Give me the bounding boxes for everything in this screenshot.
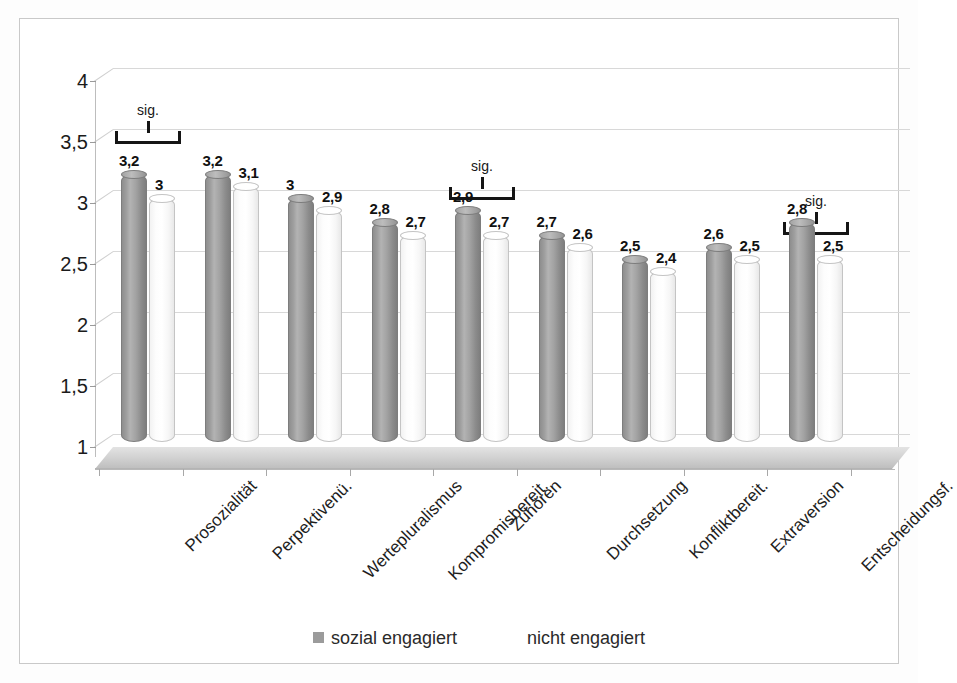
x-axis-line (95, 469, 895, 470)
x-axis-label-8: Extraversion (767, 477, 846, 556)
y-axis-tick (90, 325, 96, 326)
bar-top-ellipse (622, 255, 648, 264)
bar-value-label: 2,5 (620, 237, 640, 254)
gridline-depth-edge (94, 312, 114, 326)
bar-nicht-engagiert (149, 198, 175, 442)
bar-value-label: 3,2 (203, 152, 223, 169)
legend-label: nicht engagiert (527, 628, 645, 648)
bar-top-ellipse (400, 231, 426, 240)
bar-value-label: 3 (286, 176, 294, 193)
bar-top-ellipse (817, 255, 843, 264)
y-axis-tick-label: 2 (77, 315, 88, 335)
bar-top-ellipse (483, 231, 509, 240)
y-axis-tick-label: 4 (77, 71, 88, 91)
bar-top-ellipse (316, 206, 342, 215)
y-axis-tick-labels: 43,532,521,51 (38, 49, 88, 464)
bar-nicht-engagiert (316, 210, 342, 442)
gridline (113, 129, 910, 130)
bar-nicht-engagiert (734, 259, 760, 442)
y-axis-tick-label: 1 (77, 437, 88, 457)
legend-swatch-icon (313, 632, 324, 643)
gridline-depth-edge (94, 190, 114, 204)
bar-value-label: 2,7 (489, 213, 509, 230)
y-axis-tick (90, 142, 96, 143)
bar-sozial-engagiert (789, 222, 815, 442)
y-axis-tick-label: 3 (77, 193, 88, 213)
bar-value-label: 2,7 (537, 213, 557, 230)
bar-sozial-engagiert (706, 247, 732, 442)
bar-nicht-engagiert (400, 235, 426, 442)
x-axis-label-2: Perpektivenü. (269, 477, 355, 563)
bar-value-label: 2,8 (787, 200, 807, 217)
y-axis-line (95, 81, 96, 457)
bar-nicht-engagiert (567, 247, 593, 442)
x-axis-category-labels: ProsozialitätPerpektivenü.Wertepluralism… (95, 471, 925, 621)
bar-top-ellipse (149, 194, 175, 203)
y-axis-tick (90, 81, 96, 82)
chart-frame: 43,532,521,51 3,233,23,132,92,82,72,92,7… (19, 18, 899, 664)
bar-nicht-engagiert (233, 186, 259, 442)
bar-sozial-engagiert (288, 198, 314, 442)
gridline-depth-edge (94, 434, 114, 448)
bar-sozial-engagiert (372, 222, 398, 442)
legend-label: sozial engagiert (331, 628, 457, 648)
bar-value-label: 2,5 (823, 237, 843, 254)
bar-sozial-engagiert (622, 259, 648, 442)
gridline-depth-edge (94, 373, 114, 387)
plot-area: 3,233,23,132,92,82,72,92,72,72,62,52,42,… (95, 49, 910, 464)
y-axis-tick-label: 1,5 (60, 376, 88, 396)
significance-label: sig. (137, 102, 159, 118)
bar-value-label: 3 (155, 176, 163, 193)
bar-top-ellipse (372, 218, 398, 227)
bar-value-label: 2,5 (740, 237, 760, 254)
bar-sozial-engagiert (455, 210, 481, 442)
legend-swatch-icon (509, 632, 520, 643)
bar-value-label: 2,4 (656, 249, 676, 266)
x-axis-label-1: Prosozialität (182, 477, 260, 555)
y-axis-tick-label: 2,5 (60, 254, 88, 274)
bar-value-label: 2,6 (704, 225, 724, 242)
x-axis-label-6: Durchsetzung (603, 477, 689, 563)
bar-value-label: 2,6 (573, 225, 593, 242)
gridline (113, 68, 910, 69)
bar-value-label: 2,9 (322, 188, 342, 205)
bar-top-ellipse (706, 243, 732, 252)
legend-entry-2: nicht engagiert (509, 627, 645, 649)
bar-top-ellipse (205, 170, 231, 179)
bar-value-label: 2,7 (406, 213, 426, 230)
bar-value-label: 3,2 (119, 152, 139, 169)
bar-top-ellipse (567, 243, 593, 252)
x-axis-label-7: Konfliktbereit. (686, 477, 771, 562)
gridline-depth-edge (94, 129, 114, 143)
gridline-depth-edge (94, 251, 114, 265)
bar-value-label: 3,1 (239, 164, 259, 181)
y-axis-tick-label: 3,5 (60, 132, 88, 152)
legend-entry-1: sozial engagiert (313, 627, 457, 649)
x-axis-label-9: Entscheidungsf. (858, 477, 956, 575)
bar-value-label: 2,9 (453, 188, 473, 205)
bar-sozial-engagiert (205, 174, 231, 442)
bar-top-ellipse (650, 267, 676, 276)
significance-label: sig. (471, 158, 493, 174)
chart-legend: sozial engagiertnicht engagiert (20, 627, 938, 649)
bar-top-ellipse (734, 255, 760, 264)
chart-floor-top (95, 447, 910, 469)
bar-sozial-engagiert (539, 235, 565, 442)
bar-value-label: 2,8 (370, 200, 390, 217)
bar-top-ellipse (789, 218, 815, 227)
bar-top-ellipse (455, 206, 481, 215)
y-axis-tick (90, 264, 96, 265)
bar-nicht-engagiert (483, 235, 509, 442)
bar-top-ellipse (288, 194, 314, 203)
bar-top-ellipse (233, 182, 259, 191)
significance-bracket (115, 131, 181, 144)
bar-sozial-engagiert (121, 174, 147, 442)
bar-nicht-engagiert (817, 259, 843, 442)
bar-top-ellipse (539, 231, 565, 240)
significance-label: sig. (805, 193, 827, 209)
gridline-depth-edge (94, 68, 114, 82)
y-axis-tick (90, 386, 96, 387)
bar-top-ellipse (121, 170, 147, 179)
bar-nicht-engagiert (650, 271, 676, 442)
